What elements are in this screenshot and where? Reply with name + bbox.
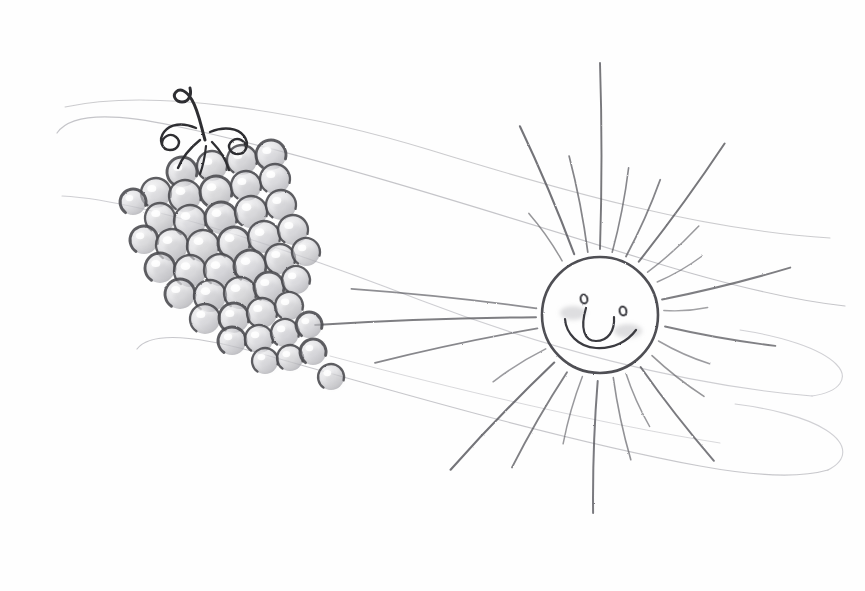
grape <box>130 226 158 254</box>
grape <box>145 253 175 283</box>
grape-highlight <box>151 260 160 267</box>
grape-highlight <box>298 244 306 251</box>
grape-highlight <box>251 331 259 338</box>
grape-highlight <box>253 305 262 312</box>
grape <box>292 238 320 266</box>
grape-highlight <box>242 203 252 211</box>
grape <box>282 266 310 294</box>
grape-highlight <box>196 311 205 318</box>
grape-highlight <box>237 178 246 185</box>
grape-highlight <box>271 251 280 258</box>
grape-highlight <box>260 279 269 286</box>
grape-highlight <box>194 237 204 245</box>
grape-highlight <box>282 351 290 357</box>
grape-highlight <box>262 147 271 154</box>
grape <box>120 189 146 215</box>
grape <box>190 304 220 334</box>
grape-highlight <box>176 187 186 195</box>
sketch-canvas: Grapes and Smiling Sun pencil sketch on … <box>0 0 865 591</box>
grape-highlight <box>305 345 313 351</box>
grape <box>252 348 278 374</box>
grape-highlight <box>255 228 265 236</box>
grape-highlight <box>288 272 296 279</box>
grape-highlight <box>225 234 235 242</box>
pencil-sketch-illustration <box>0 0 865 591</box>
grape-highlight <box>225 310 234 317</box>
grape <box>165 279 195 309</box>
grape <box>296 312 322 338</box>
grape-highlight <box>272 197 281 204</box>
grape-highlight <box>181 212 191 220</box>
grape-highlight <box>171 286 180 293</box>
sun-disc-outline <box>542 257 658 373</box>
sun-body <box>542 257 658 373</box>
grape-highlight <box>257 354 265 360</box>
grape <box>318 364 344 390</box>
grape-highlight <box>136 232 144 239</box>
sun-cheek-left <box>560 306 586 320</box>
grape-highlight <box>201 287 211 295</box>
grape <box>300 339 326 365</box>
grape-highlight <box>241 257 251 265</box>
grape-highlight <box>207 183 217 191</box>
grape-highlight <box>212 209 222 217</box>
grape-highlight <box>277 325 285 332</box>
grape-highlight <box>224 333 232 340</box>
grape-highlight <box>284 222 293 229</box>
grape-highlight <box>181 262 191 270</box>
grape-highlight <box>163 236 173 244</box>
grape-highlight <box>211 261 221 269</box>
grape-highlight <box>231 284 241 292</box>
grape-highlight <box>323 370 331 376</box>
grape-highlight <box>281 298 289 305</box>
grape <box>247 298 277 328</box>
grape-highlight <box>266 171 275 178</box>
grape-highlight <box>125 195 133 201</box>
grape-highlight <box>151 210 160 217</box>
grape-highlight <box>301 318 309 324</box>
grape <box>218 327 246 355</box>
grape-highlight <box>147 185 156 192</box>
sun-cheek-right <box>614 324 642 338</box>
